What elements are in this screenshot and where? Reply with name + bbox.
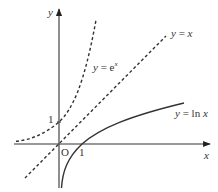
y-tick-label: 1 xyxy=(48,114,54,125)
identity-line xyxy=(25,36,166,178)
exp-curve xyxy=(16,20,96,141)
x-axis-label: x xyxy=(204,150,209,161)
exp-curve-label: y = ex xyxy=(93,61,118,73)
identity-line-label: y = x xyxy=(171,28,193,39)
log-curve-label: y = ln x xyxy=(175,108,208,119)
y-axis-label: y xyxy=(48,7,53,18)
origin-label: O xyxy=(61,147,69,158)
x-tick-label: 1 xyxy=(79,147,85,158)
